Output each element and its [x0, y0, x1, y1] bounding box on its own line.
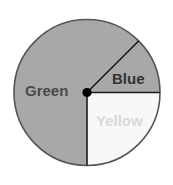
- pie-slice-label-green: Green: [25, 83, 68, 98]
- pie-chart-figure: Green Blue Yellow: [0, 0, 173, 185]
- pie-center-dot: [82, 88, 91, 97]
- pie-slice-label-blue: Blue: [112, 71, 145, 86]
- pie-slice-label-yellow: Yellow: [96, 113, 143, 128]
- pie-slice-yellow: [87, 93, 160, 166]
